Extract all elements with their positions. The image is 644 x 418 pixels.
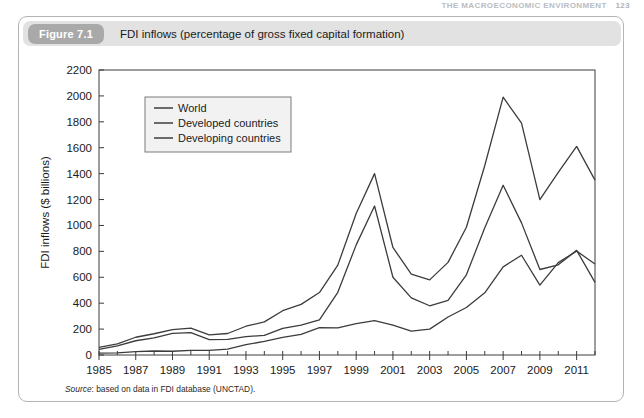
- x-tick-label: 2009: [527, 364, 553, 376]
- figure-number-badge: Figure 7.1: [28, 24, 104, 44]
- y-tick-label: 1800: [66, 116, 92, 128]
- y-tick-label: 1200: [66, 194, 92, 206]
- y-tick-label: 0: [86, 349, 92, 361]
- x-tick-label: 2005: [454, 364, 480, 376]
- legend-label-1: World: [178, 102, 207, 114]
- running-head: THE MACROECONOMIC ENVIRONMENT 123: [441, 0, 630, 12]
- running-head-page: 123: [615, 1, 630, 10]
- y-tick-label: 800: [73, 245, 92, 257]
- source-note: Source: based on data in FDI database (U…: [65, 384, 255, 394]
- running-head-text: THE MACROECONOMIC ENVIRONMENT: [441, 1, 606, 10]
- y-tick-label: 2000: [66, 90, 92, 102]
- x-tick-label: 1997: [307, 364, 333, 376]
- x-tick-label: 2007: [490, 364, 516, 376]
- x-tick-label: 2011: [564, 364, 589, 376]
- x-tick-label: 1995: [270, 364, 296, 376]
- y-tick-label: 600: [73, 271, 92, 283]
- figure-caption: FDI inflows (percentage of gross fixed c…: [120, 28, 404, 40]
- figure-header-bar: Figure 7.1 FDI inflows (percentage of gr…: [23, 21, 621, 46]
- x-tick-label: 1989: [160, 364, 186, 376]
- x-tick-label: 1991: [196, 364, 222, 376]
- y-axis-title: FDI inflows ($ billions): [39, 156, 51, 269]
- x-tick-label: 1987: [123, 364, 149, 376]
- legend-label-3: Developing countries: [178, 132, 281, 144]
- y-tick-label: 1000: [66, 219, 92, 231]
- x-tick-label: 1985: [86, 364, 112, 376]
- y-tick-label: 400: [73, 297, 92, 309]
- y-tick-label: 1400: [66, 168, 92, 180]
- figure-card: Figure 7.1 FDI inflows (percentage of gr…: [18, 16, 624, 402]
- line-chart: 0200400600800100012001400160018002000220…: [23, 50, 621, 399]
- x-tick-label: 2001: [380, 364, 406, 376]
- x-tick-label: 2003: [417, 364, 443, 376]
- x-tick-label: 1993: [233, 364, 259, 376]
- x-tick-label: 1999: [343, 364, 369, 376]
- source-label: Source: [65, 384, 92, 394]
- source-text: : based on data in FDI database (UNCTAD)…: [92, 384, 256, 394]
- chart-plot-area: 0200400600800100012001400160018002000220…: [23, 50, 621, 399]
- legend-label-2: Developed countries: [178, 117, 279, 129]
- y-tick-label: 1600: [66, 142, 92, 154]
- y-tick-label: 200: [73, 323, 92, 335]
- y-tick-label: 2200: [66, 64, 92, 76]
